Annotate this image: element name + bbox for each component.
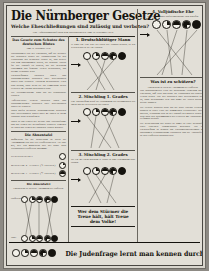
diagram-top-row (21, 196, 58, 203)
left-paragraph-3: Außerehelicher Verkehr zwischen Juden un… (11, 99, 66, 108)
page-subtitle: Welche Eheschließungen sind zulässig und… (11, 24, 135, 29)
middle-rule-1 (71, 92, 135, 93)
diagram-deutschbluetiger-mann (71, 51, 135, 91)
left-column-top-rule (11, 36, 68, 37)
diagram-bottom-label: Enkel (11, 236, 16, 238)
scanned-page: Die Nürnberger Gesetze Welche Eheschließ… (3, 2, 206, 269)
middle-slogan-box: Wer dem Stürmer die Treue hält, hält Tre… (71, 206, 135, 227)
middle-section3-heading: 3. Mischling 2. Grades (71, 153, 135, 157)
legend-label: Mischling 2. Grades (¼ jüdisch) (11, 164, 59, 167)
right-section-note: Juden untereinander dürfen unbeschränkt … (140, 15, 203, 18)
legend-item: Mischling 2. Grades (¼ jüdisch) (11, 162, 66, 169)
left-legend: Deutschblütiger Mischling 2. Grades (¼ j… (11, 153, 66, 177)
left-paragraph-0: Durchdrungen von der Erkenntnis, daß die… (11, 52, 66, 73)
legend-item: Deutschblütiger (11, 153, 66, 160)
page-title: Die Nürnberger Gesetze (11, 9, 135, 22)
diagram-top-label: Großeltern (11, 197, 20, 199)
bottom-banner: Die Judenfrage lernt man kennen durch de… (9, 242, 200, 263)
diagram-links (71, 166, 135, 204)
legend-item: Mischling 1. Grades (½ jüdisch) (11, 170, 66, 177)
diagram-mischling-ersten-grades (71, 107, 135, 149)
ancestry-circle-icon (39, 249, 47, 257)
newspaper-sheet: Die Nürnberger Gesetze Welche Eheschließ… (6, 5, 203, 266)
ancestry-circle-icon (51, 196, 58, 203)
right-section-heading: 4. Volljüdische Ehe (140, 10, 203, 14)
column-divider-1 (68, 36, 69, 251)
left-paragraph-5: Juden ist das Hissen der Reichs- und Nat… (11, 120, 66, 129)
ancestry-circle-icon (59, 153, 66, 160)
right-rule-1 (140, 77, 203, 78)
right-paragraph-2: Die Reinerhaltung des Blutes ist damit z… (140, 123, 203, 138)
ancestry-circle-icon (59, 170, 66, 177)
ancestry-circle-icon (21, 249, 29, 257)
diagram-links (71, 51, 135, 91)
diagram-volljuedische-ehe (140, 20, 203, 76)
left-paragraph-1: Eheschließungen zwischen Juden und Staat… (11, 74, 66, 89)
ancestry-circle-icon (30, 249, 38, 257)
diagram-links (71, 107, 135, 149)
left-dateline: Vom 15. September 1935 (11, 47, 66, 50)
middle-section1-note: Er kann eine Frau jeder der ersten drei … (71, 43, 135, 49)
left-column: Das Gesetz zum Schutze des deutschen Blu… (11, 38, 66, 248)
ancestry-circle-icon (59, 162, 66, 169)
left-diagram-rule (11, 180, 66, 181)
right-paragraph-0: Das Blutschutzgesetz zieht die notwendig… (140, 90, 203, 105)
bottom-legend (9, 249, 56, 257)
left-diagram-heading: Die Ahnentafel (11, 182, 66, 186)
ancestry-circle-icon (36, 196, 43, 203)
middle-section1-heading: 1. Deutschblütiger Mann (71, 38, 135, 42)
legend-label: Deutschblütiger (11, 155, 59, 158)
left-diagram-note: Entscheidend ist allein die Abstammung d… (11, 187, 66, 190)
masthead: Die Nürnberger Gesetze Welche Eheschließ… (11, 9, 135, 39)
left-section-rule (11, 131, 66, 132)
left-paragraph-4: Juden dürfen weibliche Staatsangehörige … (11, 109, 66, 118)
left-intro-heading: Das Gesetz zum Schutze des deutschen Blu… (11, 38, 66, 46)
ancestry-circle-icon (12, 249, 20, 257)
diagram-mischling-zweiten-grades (71, 166, 135, 204)
left-subheading: Die Ahnentafel (11, 133, 66, 137)
masthead-kicker: Eine Aufklärungsschrift nach dem Blutsch… (11, 31, 135, 34)
ancestry-circle-icon (21, 196, 28, 203)
right-column: 4. Volljüdische Ehe Juden untereinander … (140, 10, 203, 138)
diagram-abstammung-zweireihig: Großeltern Enkel (11, 192, 66, 248)
left-paragraph-2: Die Nichtigkeitsklage kann nur der Staat… (11, 91, 66, 97)
column-divider-2 (137, 9, 138, 251)
middle-section3-note: Die Ehe mit einem Mischling 2. Grades is… (71, 158, 135, 164)
legend-label: Mischling 1. Grades (½ jüdisch) (11, 172, 59, 175)
diagram-links (140, 20, 203, 76)
middle-slogan: Wer dem Stürmer die Treue hält, hält Tre… (72, 209, 134, 224)
ancestry-circle-icon (44, 196, 51, 203)
middle-section2-heading: 2. Mischling 1. Grades (71, 95, 135, 99)
middle-section2-note: Eine Eheschließung bedarf der Genehmigun… (71, 100, 135, 106)
right-question-heading: Was ist zu schützen? (140, 80, 203, 84)
middle-rule-2 (71, 150, 135, 151)
ancestry-circle-icon (48, 249, 56, 257)
right-paragraph-1: Die Gesetze schützen nicht nur die heute… (140, 107, 203, 122)
ancestry-circle-icon (29, 196, 36, 203)
middle-column: 1. Deutschblütiger Mann Er kann eine Fra… (71, 38, 135, 227)
left-sub-paragraph: Maßgebend für die Beurteilung ist allein… (11, 138, 66, 150)
bottom-slogan: Die Judenfrage lernt man kennen durch de… (62, 249, 204, 257)
